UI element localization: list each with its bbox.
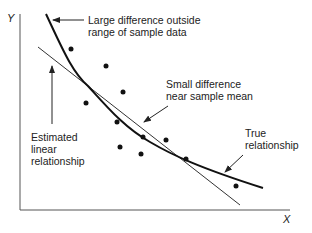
- annotation-line: Estimated: [31, 131, 85, 143]
- sample-points: [69, 47, 239, 189]
- annotation-line: linear: [31, 143, 85, 155]
- annotation-true-relationship: True relationship: [245, 127, 299, 151]
- y-axis-label: Y: [7, 12, 14, 24]
- annotation-line: relationship: [31, 155, 85, 167]
- arrow-small-diff: [144, 106, 168, 122]
- annotation-line: relationship: [245, 139, 299, 151]
- estimated-linear-line: [38, 47, 240, 205]
- annotation-line: Large difference outside: [88, 14, 200, 26]
- annotation-small-difference: Small difference near sample mean: [166, 78, 253, 102]
- annotation-line: True: [245, 127, 299, 139]
- annotation-large-difference: Large difference outside range of sample…: [88, 14, 200, 38]
- x-axis-label: X: [283, 213, 290, 225]
- annotation-line: range of sample data: [88, 26, 200, 38]
- arrow-true: [225, 155, 243, 172]
- annotation-line: near sample mean: [166, 90, 253, 102]
- annotation-estimated-linear: Estimated linear relationship: [31, 131, 85, 167]
- annotation-line: Small difference: [166, 78, 253, 90]
